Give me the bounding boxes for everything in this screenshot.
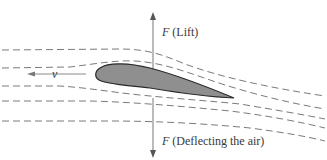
streamline-3 (2, 86, 325, 119)
arrow-up-icon (150, 12, 156, 20)
velocity-label: v (52, 68, 57, 80)
lift-text: (Lift) (172, 25, 198, 39)
force-symbol: F (162, 25, 169, 39)
arrow-down-icon (150, 150, 156, 158)
lift-force-label: F (Lift) (162, 26, 198, 38)
deflect-force-label: F (Deflecting the air) (162, 135, 264, 147)
streamlines (2, 49, 325, 141)
arrow-left-icon (27, 72, 35, 77)
streamline-4 (2, 101, 325, 128)
force-symbol: F (162, 134, 169, 148)
deflect-arrow (150, 98, 156, 158)
deflect-text: (Deflecting the air) (172, 134, 264, 148)
